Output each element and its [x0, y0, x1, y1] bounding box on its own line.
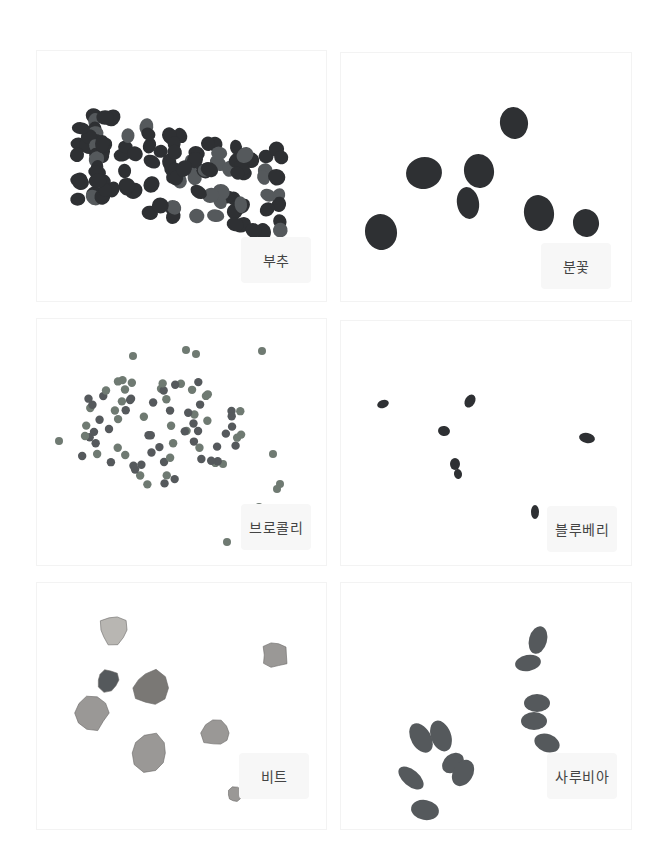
seed	[105, 425, 113, 433]
seed-panel-beet: 비트	[36, 582, 327, 830]
seed	[90, 428, 98, 436]
label-box-broccoli: 브로콜리	[241, 504, 311, 550]
seed	[167, 422, 175, 430]
seed	[181, 427, 189, 435]
seed	[188, 207, 206, 224]
seed	[140, 173, 163, 196]
seed	[454, 185, 481, 220]
seed	[163, 471, 171, 479]
seed	[222, 429, 230, 437]
seed	[223, 538, 231, 546]
seed-label-broccoli: 브로콜리	[249, 517, 303, 537]
seed	[100, 617, 127, 645]
seed	[111, 406, 119, 414]
seed	[91, 439, 99, 447]
seed	[514, 653, 542, 673]
label-box-beet: 비트	[239, 753, 309, 799]
seed	[162, 395, 170, 403]
seed-label-salvia: 사루비아	[555, 766, 609, 786]
seed	[128, 379, 136, 387]
seed	[236, 407, 244, 415]
seed	[149, 398, 157, 406]
seed-panel-buchu: 부추	[36, 50, 327, 302]
label-box-blueberry: 블루베리	[547, 506, 617, 552]
seed	[450, 458, 460, 470]
seed	[526, 624, 551, 656]
seed	[394, 762, 427, 794]
seed	[497, 105, 530, 141]
seed-label-beet: 비트	[261, 766, 288, 786]
seed	[524, 694, 550, 712]
seed	[204, 390, 212, 398]
seed	[231, 441, 239, 449]
label-box-buchu: 부추	[241, 237, 311, 283]
seed	[184, 408, 192, 416]
seed	[133, 669, 169, 704]
seed-label-buchu: 부추	[263, 250, 290, 270]
seed-panel-broccoli: 브로콜리	[36, 318, 327, 566]
seed	[189, 419, 197, 427]
label-box-bunkkot: 분꽃	[541, 243, 611, 289]
seed	[227, 412, 235, 420]
seed	[118, 163, 132, 178]
seed	[462, 392, 478, 409]
seed	[126, 396, 134, 404]
seed	[166, 406, 174, 414]
seed	[114, 415, 122, 423]
seed	[102, 386, 110, 394]
seed	[75, 696, 110, 730]
seed	[55, 437, 63, 445]
seed	[121, 385, 129, 393]
seed	[207, 457, 215, 465]
seed	[437, 425, 451, 437]
seed-label-bunkkot: 분꽃	[563, 256, 590, 276]
seed	[122, 406, 130, 414]
seed	[194, 378, 202, 386]
seed	[84, 394, 92, 402]
seed	[403, 154, 444, 192]
seed	[143, 480, 151, 488]
seed	[114, 377, 122, 385]
seed	[182, 346, 190, 354]
seed	[114, 444, 122, 452]
seed	[453, 468, 463, 479]
seed	[118, 397, 126, 405]
seed	[107, 458, 115, 466]
seed	[228, 422, 236, 430]
seed	[213, 442, 221, 450]
seed-label-blueberry: 블루베리	[555, 519, 609, 539]
seed	[159, 386, 167, 394]
seed	[521, 193, 557, 234]
seed	[376, 398, 390, 410]
seed	[171, 381, 179, 389]
seed	[263, 643, 287, 667]
seed	[121, 451, 129, 459]
seed	[81, 432, 89, 440]
seed	[194, 427, 202, 435]
seed	[93, 450, 101, 458]
seed	[170, 475, 178, 483]
seed	[521, 712, 547, 730]
seed	[578, 432, 595, 445]
seed	[197, 455, 205, 463]
seed	[140, 413, 148, 421]
seed	[531, 505, 539, 519]
seed-panel-salvia: 사루비아	[340, 582, 632, 830]
seed	[78, 452, 86, 460]
seed	[237, 430, 245, 438]
seed-panel-bunkkot: 분꽃	[340, 52, 632, 302]
seed	[129, 462, 137, 470]
seed	[203, 417, 211, 425]
seed	[82, 421, 90, 429]
seed	[206, 208, 225, 223]
seed	[258, 347, 266, 355]
seed	[461, 152, 496, 191]
seed	[362, 211, 400, 252]
seed	[196, 400, 204, 408]
seed	[273, 485, 281, 493]
seed	[201, 720, 229, 744]
seed	[169, 439, 177, 447]
seed	[155, 443, 163, 451]
seed-panel-blueberry: 블루베리	[340, 320, 632, 566]
seed	[69, 192, 86, 207]
